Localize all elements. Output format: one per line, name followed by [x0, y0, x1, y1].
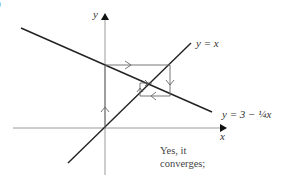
- cobweb-diagram: [0, 0, 290, 181]
- line-y-equals-3-minus-quarter-x: [21, 28, 212, 112]
- note-line-2: converges;: [160, 157, 205, 170]
- note-line-1: Yes, it: [160, 144, 205, 157]
- y-axis-label: y: [93, 8, 98, 20]
- x-axis-label: x: [220, 130, 225, 142]
- identity-line-label: y = x: [196, 37, 219, 49]
- convergence-note: Yes, it converges;: [160, 144, 205, 170]
- map-line-label: y = 3 − ¼x: [222, 108, 271, 120]
